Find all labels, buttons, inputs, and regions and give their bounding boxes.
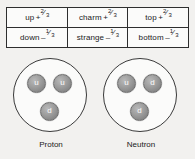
quark-symbol: u	[54, 75, 71, 91]
charge-fraction: 2⁄3	[108, 13, 116, 22]
quark-symbol: d	[144, 75, 161, 91]
charge-fraction: 2⁄3	[41, 13, 49, 22]
quark-name: down	[20, 33, 40, 42]
quark-cell-top: top+2⁄3	[128, 8, 189, 28]
quark-cell-charm: charm+2⁄3	[67, 8, 128, 28]
quark-symbol: u	[28, 75, 45, 91]
charge-fraction: 1⁄3	[110, 33, 118, 42]
quark-name: strange	[77, 33, 104, 42]
charge-fraction: 1⁄3	[170, 33, 178, 42]
charge-fraction: 2⁄3	[163, 13, 171, 22]
quark-sphere-neutron-3: d	[130, 102, 149, 121]
fraction-denominator: 3	[175, 32, 178, 38]
table-row: down–1⁄3 strange–1⁄3 bottom–1⁄3	[7, 28, 189, 48]
proton-diagram: u u d	[13, 58, 89, 134]
neutron-diagram: u d d	[103, 58, 179, 134]
quark-name: charm	[79, 13, 102, 22]
quark-sphere-proton-1: u	[27, 74, 46, 93]
quark-cell-bottom: bottom–1⁄3	[128, 28, 189, 48]
fraction-denominator: 3	[113, 12, 116, 18]
proton-label: Proton	[11, 140, 91, 149]
quark-name: up	[25, 13, 34, 22]
fraction-denominator: 3	[169, 12, 172, 18]
quark-cell-strange: strange–1⁄3	[67, 28, 128, 48]
quark-symbol: u	[118, 75, 135, 91]
quark-sphere-proton-2: u	[53, 74, 72, 93]
quark-sphere-proton-3: d	[40, 102, 59, 121]
neutron-label: Neutron	[101, 140, 181, 149]
fraction-denominator: 3	[46, 12, 49, 18]
charge-fraction: 1⁄3	[46, 33, 54, 42]
fraction-denominator: 3	[116, 32, 119, 38]
quark-symbol: d	[131, 103, 148, 119]
figure-canvas: up+2⁄3 charm+2⁄3 top+2⁄3 down–	[0, 0, 195, 159]
quark-cell-down: down–1⁄3	[7, 28, 68, 48]
quark-sphere-neutron-1: u	[117, 74, 136, 93]
quark-symbol: d	[41, 103, 58, 119]
fraction-bar: ⁄	[49, 29, 50, 37]
quark-sphere-neutron-2: d	[143, 74, 162, 93]
fraction-bar: ⁄	[111, 9, 112, 17]
quark-name: bottom	[139, 33, 164, 42]
table-row: up+2⁄3 charm+2⁄3 top+2⁄3	[7, 8, 189, 28]
fraction-bar: ⁄	[166, 9, 167, 17]
fraction-bar: ⁄	[113, 29, 114, 37]
fraction-bar: ⁄	[173, 29, 174, 37]
fraction-denominator: 3	[51, 32, 54, 38]
quark-charge-table: up+2⁄3 charm+2⁄3 top+2⁄3 down–	[6, 7, 189, 48]
quark-name: top	[145, 13, 156, 22]
quark-cell-up: up+2⁄3	[7, 8, 68, 28]
fraction-bar: ⁄	[44, 9, 45, 17]
